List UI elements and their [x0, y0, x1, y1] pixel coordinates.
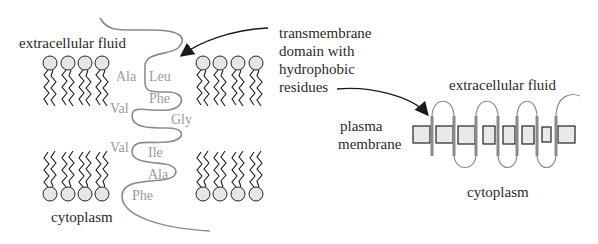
arrow-to-left-protein-icon	[182, 28, 268, 55]
lipid-bilayer-left	[43, 56, 109, 201]
cytoplasm-label-right: cytoplasm	[467, 184, 529, 200]
amino-acid-label: Phe	[132, 188, 153, 203]
amino-acid-label: Leu	[149, 69, 171, 84]
amino-acid-label: Val	[110, 140, 129, 155]
plasma-membrane-label-line-2: membrane	[338, 136, 402, 152]
amino-acid-label: Phe	[149, 91, 170, 106]
plasma-membrane-label-line-1: plasma	[340, 118, 383, 134]
amino-acid-label: Gly	[171, 112, 192, 127]
amino-acid-label: Val	[110, 101, 129, 116]
amino-acid-label: Ala	[116, 69, 137, 84]
callout-line-4: residues	[279, 79, 328, 95]
cytoplasm-label-left: cytoplasm	[51, 209, 113, 225]
arrow-to-right-protein-icon	[337, 88, 427, 114]
extracellular-fluid-label-right: extracellular fluid	[449, 77, 557, 93]
callout-line-3: hydrophobic	[279, 61, 355, 77]
extracellular-fluid-label-left: extracellular fluid	[19, 35, 127, 51]
membrane-protein-figure: extracellular fluid cytoplasm Ala Leu Ph…	[0, 0, 598, 244]
amino-acid-label: Ala	[148, 167, 169, 182]
callout-line-1: transmembrane	[279, 25, 372, 41]
callout-text: transmembrane domain with hydrophobic re…	[279, 25, 372, 95]
plasma-membrane-segments	[413, 126, 575, 144]
callout-line-2: domain with	[279, 43, 355, 59]
lipid-bilayer-right	[196, 56, 263, 201]
amino-acid-labels: Ala Leu Phe Val Gly Val Ile Ala Phe	[110, 69, 192, 203]
amino-acid-label: Ile	[148, 145, 163, 160]
